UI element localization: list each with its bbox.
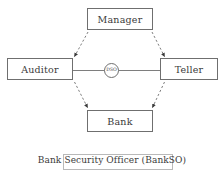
- edge-manager-to-teller: [152, 32, 165, 57]
- node-manager-label: Manager: [98, 14, 143, 25]
- node-manager: Manager: [87, 8, 153, 30]
- edge-manager-to-auditor: [75, 32, 89, 57]
- node-dso-label: DSO: [106, 68, 116, 73]
- node-auditor-label: Auditor: [21, 64, 59, 75]
- edge-auditor-to-bank: [75, 82, 88, 108]
- node-auditor: Auditor: [7, 58, 73, 80]
- node-dso: DSO: [104, 63, 119, 78]
- edge-teller-to-bank: [153, 82, 165, 108]
- node-teller-label: Teller: [175, 64, 204, 75]
- diagram-canvas: Manager Auditor Teller Bank DSO Bank Sec…: [0, 0, 224, 179]
- diagram-caption: Bank Security Officer (BankSO): [0, 155, 224, 165]
- node-teller: Teller: [160, 58, 218, 80]
- node-bank: Bank: [87, 110, 153, 132]
- node-bank-label: Bank: [107, 116, 132, 127]
